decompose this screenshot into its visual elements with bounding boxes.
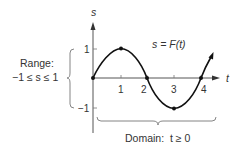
range-expression: −1 ≤ s ≤ 1: [12, 71, 58, 83]
t-axis-arrow-icon: [212, 76, 220, 81]
x-tick-label-2: 2: [141, 84, 147, 95]
t-axis-label: t: [226, 72, 230, 84]
range-brace: [67, 49, 74, 108]
point-t4: [199, 76, 203, 80]
x-tick-label-3: 3: [171, 84, 177, 95]
domain-brace: [97, 117, 216, 125]
point-origin: [91, 76, 95, 80]
point-min: [172, 107, 176, 111]
function-label: s = F(t): [152, 38, 186, 50]
s-axis-label: s: [91, 6, 97, 18]
y-tick-label-neg1: −1: [78, 103, 90, 114]
x-tick-label-4: 4: [201, 84, 207, 95]
curve-arrow-icon: [209, 52, 214, 60]
point-t2: [145, 76, 149, 80]
function-graph: s t 1 2 3 4 1 −1 s = F(t) Range: −1 ≤ s …: [0, 0, 240, 149]
point-max: [119, 47, 123, 51]
s-axis-arrow-icon: [91, 22, 96, 30]
range-title: Range:: [20, 57, 54, 69]
y-tick-label-1: 1: [84, 44, 90, 55]
domain-label: Domain: t ≥ 0: [125, 132, 190, 144]
x-tick-label-1: 1: [118, 84, 124, 95]
